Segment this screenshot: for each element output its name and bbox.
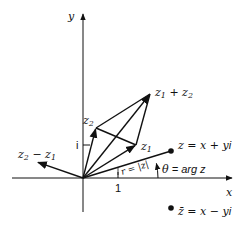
unit-y-label: i	[76, 139, 78, 151]
label-z1: z1	[140, 140, 152, 154]
label-conjugate: z̄ = x − yi	[177, 205, 232, 218]
point-z	[168, 148, 174, 154]
unit-x-label: 1	[115, 182, 121, 194]
point-z-conjugate	[168, 205, 174, 211]
x-axis-label: x	[226, 186, 233, 199]
label-z2-minus-z1: z2 − z1	[17, 148, 56, 162]
label-argument: θ = arg z	[162, 163, 206, 176]
label-z-point: z = x + yi	[177, 139, 232, 152]
theta-arc	[156, 164, 158, 179]
label-modulus: r = |z|	[120, 159, 150, 178]
label-z2: z2	[82, 114, 94, 128]
vector-z2-minus-z1	[38, 162, 83, 178]
y-axis-label: y	[67, 10, 75, 23]
complex-plane-diagram: y x 1 i z2 z1 z1 + z2 z2 − z1 z = x + yi…	[0, 0, 243, 228]
label-z1-plus-z2: z1 + z2	[154, 86, 193, 100]
